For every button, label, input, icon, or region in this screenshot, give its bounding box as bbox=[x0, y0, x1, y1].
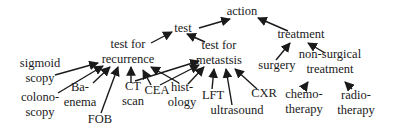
nodes-layer: actiontesttreatmenttest forrecurrencetes… bbox=[20, 4, 376, 126]
node-chemotherapy: chemo-therapy bbox=[285, 87, 323, 116]
node-histology: hist-ology bbox=[168, 80, 197, 109]
node-label-line: colono- bbox=[21, 90, 59, 104]
arrow-test_recurrence-to-test bbox=[151, 32, 172, 43]
concept-diagram: actiontesttreatmenttest forrecurrencetes… bbox=[0, 0, 394, 132]
node-label-line: hist- bbox=[171, 80, 193, 94]
node-ultrasound: ultrasound bbox=[211, 103, 265, 117]
node-surgery: surgery bbox=[258, 58, 296, 72]
arrow-ba_enema-to-test_recurrence bbox=[93, 67, 110, 83]
node-non-surgical: non-surgicaltreatment bbox=[299, 47, 362, 76]
node-label-line: chemo- bbox=[285, 87, 322, 101]
node-label-line: enema bbox=[64, 95, 97, 109]
node-label-line: CEA bbox=[145, 83, 170, 97]
arrow-test-to-action bbox=[199, 19, 230, 28]
node-sigmoidscopy: sigmoidscopy bbox=[20, 56, 61, 85]
node-label-line: ology bbox=[168, 95, 197, 109]
diagram-canvas: actiontesttreatmenttest forrecurrencetes… bbox=[0, 0, 394, 132]
node-test-metastasis: test formetastsis bbox=[196, 38, 242, 67]
node-test: test bbox=[174, 21, 192, 35]
node-cxr: CXR bbox=[251, 86, 277, 100]
node-label-line: treatment bbox=[277, 27, 325, 41]
node-label-line: therapy bbox=[337, 103, 375, 117]
node-label-line: therapy bbox=[285, 102, 323, 116]
node-label-line: test for bbox=[201, 38, 237, 52]
node-label-line: ultrasound bbox=[211, 103, 265, 117]
node-label-line: scopy bbox=[25, 71, 55, 85]
node-cea: CEA bbox=[145, 83, 170, 97]
node-label-line: scan bbox=[122, 94, 145, 108]
node-label-line: LFT bbox=[202, 88, 225, 102]
node-label-line: FOB bbox=[88, 112, 112, 126]
node-treatment: treatment bbox=[277, 27, 325, 41]
node-label-line: CT bbox=[125, 79, 141, 93]
arrow-ultrasound-to-test_metastasis bbox=[226, 69, 232, 105]
node-label-line: Ba- bbox=[71, 80, 89, 94]
node-label-line: scopy bbox=[25, 105, 55, 119]
node-label-line: sigmoid bbox=[20, 56, 61, 70]
node-action: action bbox=[227, 4, 258, 18]
arrow-lft-to-test_metastasis bbox=[212, 69, 214, 89]
node-label-line: recurrence bbox=[102, 52, 155, 66]
node-lft: LFT bbox=[202, 88, 225, 102]
node-label-line: non-surgical bbox=[299, 47, 362, 61]
node-label-line: surgery bbox=[258, 58, 296, 72]
node-label-line: radio- bbox=[341, 88, 371, 102]
node-radiotherapy: radio-therapy bbox=[337, 88, 375, 117]
node-colonoscopy: colono-scopy bbox=[21, 90, 59, 119]
node-test-recurrence: test forrecurrence bbox=[102, 37, 155, 66]
node-label-line: test bbox=[174, 21, 192, 35]
node-ba-enema: Ba-enema bbox=[64, 80, 97, 109]
node-ct-scan: CTscan bbox=[122, 79, 145, 108]
node-label-line: CXR bbox=[251, 86, 277, 100]
node-label-line: metastsis bbox=[196, 53, 242, 67]
node-label-line: test for bbox=[110, 37, 146, 51]
node-label-line: action bbox=[227, 4, 258, 18]
node-label-line: treatment bbox=[306, 62, 354, 76]
node-fob: FOB bbox=[88, 112, 112, 126]
